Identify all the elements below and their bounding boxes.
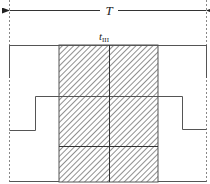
timing-diagram: T tIII — [0, 0, 210, 184]
interval-label: tIII — [99, 30, 110, 44]
hatched-interval — [59, 45, 158, 182]
interval-label-subscript: III — [102, 36, 110, 44]
period-label: T — [105, 3, 113, 18]
